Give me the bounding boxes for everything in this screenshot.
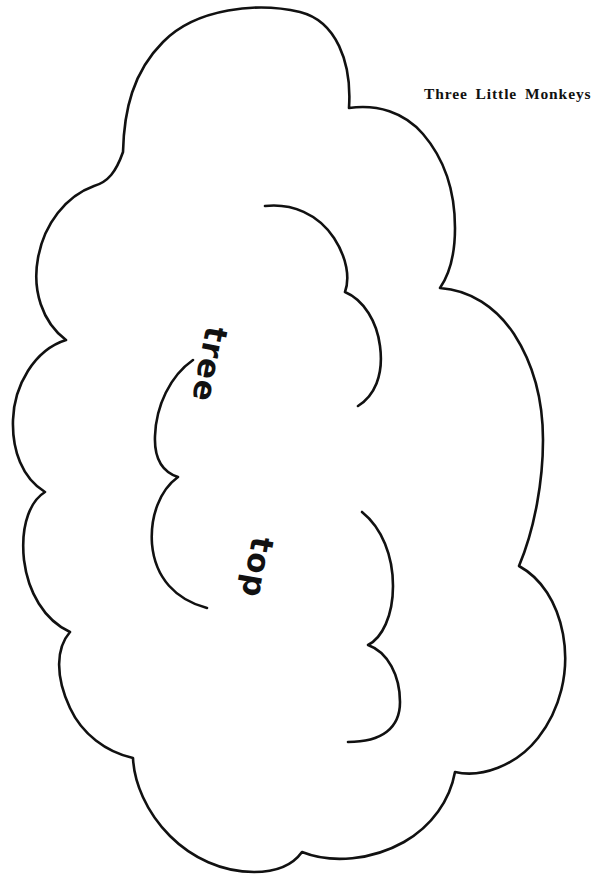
handwritten-label-top: top bbox=[237, 535, 278, 601]
page-title: Three Little Monkeys bbox=[424, 86, 592, 102]
cloud-outer-outline bbox=[13, 8, 565, 872]
